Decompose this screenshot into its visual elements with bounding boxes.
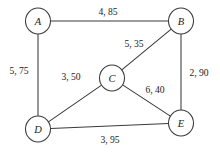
node-a: A bbox=[26, 8, 51, 34]
node-label-d: D bbox=[33, 124, 42, 135]
graph-canvas: ABCDE 4, 855, 755, 352, 903, 506, 403, 9… bbox=[0, 0, 220, 152]
edge-b-c bbox=[122, 29, 171, 70]
edge-label-d-e: 3, 95 bbox=[100, 134, 119, 145]
edge-label-c-d: 3, 50 bbox=[61, 71, 80, 82]
node-d: D bbox=[26, 116, 51, 142]
node-e: E bbox=[169, 110, 194, 136]
node-label-b: B bbox=[178, 16, 185, 27]
edge-c-d bbox=[48, 85, 101, 122]
node-c: C bbox=[100, 65, 125, 91]
edge-d-e bbox=[50, 124, 168, 129]
graph-figure: ABCDE 4, 855, 755, 352, 903, 506, 403, 9… bbox=[0, 0, 220, 152]
node-label-c: C bbox=[108, 73, 116, 84]
edge-label-a-d: 5, 75 bbox=[9, 65, 28, 76]
edge-label-b-c: 5, 35 bbox=[124, 38, 143, 49]
node-label-e: E bbox=[177, 118, 185, 129]
node-b: B bbox=[169, 8, 194, 34]
nodes-layer: ABCDE bbox=[26, 8, 194, 142]
edge-label-c-e: 6, 40 bbox=[145, 84, 164, 95]
edge-label-b-e: 2, 90 bbox=[189, 67, 208, 78]
edge-label-a-b: 4, 85 bbox=[98, 6, 117, 17]
node-label-a: A bbox=[34, 16, 42, 27]
